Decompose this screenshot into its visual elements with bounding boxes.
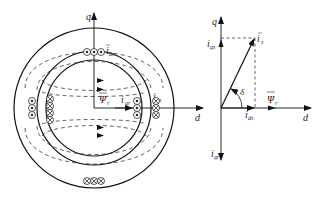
svg-text:qs: qs — [210, 44, 216, 50]
svg-text:r: r — [275, 100, 278, 106]
svg-text:r: r — [107, 100, 110, 106]
motor-dq-diagram: q d Ψ r i qr i ds i qs — [0, 0, 320, 213]
svg-text:ds: ds — [248, 115, 254, 121]
current-label-ids: i ds — [106, 45, 115, 57]
label-iqs-right: i qs — [207, 38, 216, 50]
label-ids-right: i ds — [245, 109, 254, 121]
label-is: i s — [257, 33, 264, 45]
svg-text:qr: qr — [214, 154, 220, 160]
svg-text:s: s — [261, 39, 264, 45]
dq-vector-diagram: q i qr i qs d i ds Ψ r — [207, 16, 311, 160]
conductors-top-dots — [84, 49, 105, 56]
label-flux-right: Ψ r — [267, 92, 278, 106]
d-axis-label-left: d — [195, 112, 201, 123]
current-label-iqr: i qr — [121, 94, 131, 106]
q-axis-label-left: q — [86, 11, 91, 22]
svg-text:Ψ: Ψ — [99, 94, 107, 105]
flux-arrowhead — [268, 106, 276, 111]
d-axis-label-right: d — [303, 112, 309, 123]
conductors-left-dots — [29, 98, 36, 119]
svg-text:i: i — [257, 33, 260, 44]
delta-label: δ — [240, 87, 245, 97]
iqs-arrowhead — [219, 39, 224, 47]
svg-text:i: i — [121, 94, 124, 105]
svg-text:ds: ds — [109, 51, 115, 57]
flux-lines-bottom — [25, 120, 163, 165]
conductors-left-crosses — [47, 96, 54, 124]
svg-text:qr: qr — [125, 100, 131, 106]
conductors-bottom-crosses — [84, 178, 105, 185]
motor-cross-section: q d Ψ r i qr i ds i qs — [14, 11, 203, 188]
svg-text:Ψ: Ψ — [267, 94, 275, 105]
q-axis-label-right: q — [212, 16, 217, 27]
flux-label-psi-r: Ψ r — [99, 93, 110, 106]
is-vector — [221, 39, 254, 108]
conductors-right-dots — [134, 98, 141, 119]
conductors-right-crosses — [153, 98, 160, 119]
label-iqr-right: i qr — [211, 148, 220, 160]
